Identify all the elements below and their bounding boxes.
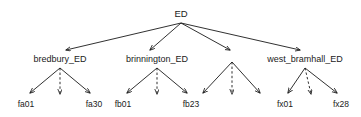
edge-west-bramhall-to-fx28 [305, 68, 337, 93]
node-leaf-fa01: fa01 [18, 100, 35, 109]
edge-root-to-bredbury [66, 23, 181, 50]
edge-root-to-west-bramhall [181, 23, 300, 50]
node-ed-root: ED [174, 9, 187, 19]
root-edge-group [66, 23, 300, 50]
edge-root-to-elided [181, 23, 230, 50]
edge-brinnington-to-fb01 [127, 68, 157, 93]
edge-bredbury-to-fa01 [30, 68, 60, 93]
node-leaf-fb23: fb23 [183, 100, 200, 109]
elided-branch-edge-group [203, 62, 260, 94]
edge-west-bramhall-to-fx01 [288, 68, 305, 93]
node-leaf-fa30: fa30 [86, 100, 103, 109]
node-leaf-fb01: fb01 [115, 100, 132, 109]
west-bramhall-edge-group [288, 68, 337, 94]
brinnington-edge-group [127, 68, 187, 94]
node-bredbury-ed: bredbury_ED [33, 55, 86, 64]
edge-bredbury-to-fa30 [60, 68, 90, 93]
node-brinnington-ed: brinnington_ED [126, 55, 188, 64]
tree-diagram: ED bredbury_ED brinnington_ED west_bramh… [0, 0, 361, 117]
edge-brinnington-to-fb23 [157, 68, 187, 93]
bredbury-edge-group [30, 68, 90, 94]
node-west-bramhall-ed: west_bramhall_ED [267, 55, 343, 64]
node-leaf-fx28: fx28 [333, 100, 349, 109]
edge-elided-left [203, 62, 232, 93]
node-leaf-fx01: fx01 [277, 100, 293, 109]
edge-elided-right [232, 62, 260, 93]
